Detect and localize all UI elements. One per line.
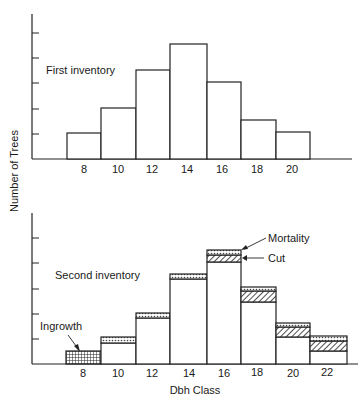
bar-18 xyxy=(241,120,276,159)
chart-canvas: Number of Trees First inventory 8 10 12 … xyxy=(0,0,360,402)
bar-10 xyxy=(101,337,136,364)
bar-18 xyxy=(241,287,276,364)
svg-text:20: 20 xyxy=(287,367,299,379)
bottom-chart-title: Second inventory xyxy=(55,269,140,281)
svg-text:16: 16 xyxy=(216,163,228,175)
bottom-x-ticks: 8 10 12 14 16 18 20 22 xyxy=(80,366,333,379)
bar-22 xyxy=(310,336,347,364)
bar-20 xyxy=(276,132,310,159)
bar-8 xyxy=(67,133,101,159)
cut-label: Cut xyxy=(268,252,285,264)
bar-8-ingrowth xyxy=(66,351,101,364)
svg-text:12: 12 xyxy=(146,367,158,379)
cut-arrow xyxy=(242,255,264,261)
svg-text:8: 8 xyxy=(80,367,86,379)
bar-12 xyxy=(136,313,170,364)
svg-text:18: 18 xyxy=(251,163,263,175)
bar-10 xyxy=(101,108,136,159)
bar-16 xyxy=(207,250,241,364)
x-axis-label: Dbh Class xyxy=(170,384,221,396)
svg-text:12: 12 xyxy=(146,163,158,175)
bar-14 xyxy=(170,44,207,159)
svg-text:14: 14 xyxy=(183,367,195,379)
svg-text:10: 10 xyxy=(112,367,124,379)
top-chart-title: First inventory xyxy=(46,64,116,76)
bar-14 xyxy=(170,274,207,364)
svg-text:14: 14 xyxy=(181,163,193,175)
top-bars xyxy=(67,44,310,159)
top-chart: First inventory 8 10 12 14 16 18 20 xyxy=(32,14,352,175)
bottom-y-ticks xyxy=(32,238,39,339)
mortality-label: Mortality xyxy=(268,232,310,244)
y-axis-label: Number of Trees xyxy=(8,130,20,212)
ingrowth-arrow xyxy=(68,335,80,352)
bar-20 xyxy=(276,323,310,364)
svg-text:22: 22 xyxy=(321,366,333,378)
svg-text:10: 10 xyxy=(112,163,124,175)
top-y-ticks xyxy=(32,33,39,134)
bar-16 xyxy=(207,82,241,159)
bar-12 xyxy=(136,70,170,159)
svg-text:8: 8 xyxy=(81,163,87,175)
mortality-arrow xyxy=(241,238,266,250)
svg-text:18: 18 xyxy=(251,366,263,378)
svg-text:16: 16 xyxy=(218,367,230,379)
bottom-chart: Second inventory Ingrowth Mortality Cut … xyxy=(32,213,358,396)
svg-text:20: 20 xyxy=(286,163,298,175)
ingrowth-label: Ingrowth xyxy=(40,320,82,332)
top-x-ticks: 8 10 12 14 16 18 20 xyxy=(81,163,298,175)
